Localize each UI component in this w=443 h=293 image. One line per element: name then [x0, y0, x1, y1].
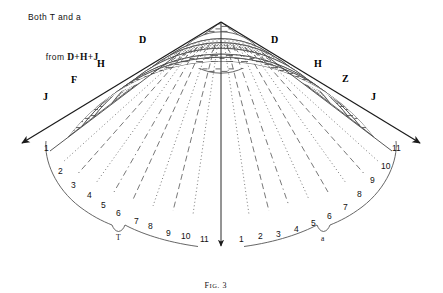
- left-scale-number: 11: [200, 234, 209, 244]
- caption-small-caps: IG.: [209, 282, 219, 289]
- edge-label-j-right: J: [371, 91, 376, 102]
- caption-number: 3: [222, 281, 227, 290]
- annotation-line-2-symbols: D+H+J: [67, 52, 98, 62]
- annotation-line-2-prefix: from: [46, 52, 67, 62]
- left-scale-number: 7: [134, 216, 139, 226]
- edge-label-h-left: H: [97, 58, 105, 69]
- right-scale-number: 8: [357, 189, 362, 199]
- figure-3-container: Both T and a from D+H+J D D H H F Z J J …: [0, 0, 443, 293]
- left-scale-number: 5: [101, 200, 106, 210]
- edge-label-d-right: D: [271, 34, 278, 45]
- annotation-line-2: from D+H+J: [28, 28, 98, 82]
- edge-label-z-right: Z: [342, 73, 349, 84]
- edge-label-f-left: F: [71, 74, 77, 85]
- edge-label-d-left: D: [139, 34, 146, 45]
- annotation-line-1: Both T and a: [28, 12, 81, 22]
- left-brace-label: T: [116, 233, 121, 242]
- left-scale-number: 6: [116, 208, 121, 218]
- left-scale-number: 2: [58, 166, 63, 176]
- left-scale-arc: [46, 141, 112, 225]
- right-scale-number: 5: [311, 218, 316, 228]
- edge-label-j-left: J: [43, 91, 48, 102]
- radial-divider-group: [50, 22, 392, 246]
- right-scale-number: 6: [327, 211, 332, 221]
- right-scale-number: 7: [343, 202, 348, 212]
- right-scale-number: 11: [392, 143, 401, 153]
- edge-label-h-right: H: [314, 58, 322, 69]
- right-scale-number: 3: [276, 229, 281, 239]
- right-brace-label: a: [321, 234, 324, 243]
- left-scale-number: 4: [87, 190, 92, 200]
- right-scale-number: 2: [258, 231, 263, 241]
- figure-caption: FIG. 3: [194, 272, 227, 293]
- radial-rays: [50, 22, 392, 246]
- left-scale-number: 3: [71, 180, 76, 190]
- right-scale-arc: [330, 141, 396, 225]
- left-scale-number: 1: [44, 143, 49, 153]
- left-scale-number: 10: [181, 231, 190, 241]
- right-scale-number: 10: [381, 161, 390, 171]
- left-scale-number: 9: [166, 228, 171, 238]
- right-scale-number: 9: [370, 175, 375, 185]
- right-brace-arc: [244, 225, 330, 247]
- left-scale-number: 8: [148, 221, 153, 231]
- right-scale-number: 1: [239, 234, 244, 244]
- right-scale-number: 4: [294, 224, 299, 234]
